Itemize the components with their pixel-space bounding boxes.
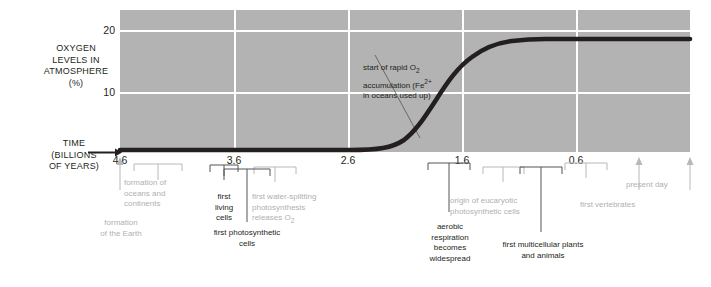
- event-label-present-day: present day: [626, 180, 702, 191]
- event-label-formation-oceans-continents: formation of oceans and continents: [124, 178, 188, 210]
- water-splitting-o2-subscript: 2: [291, 217, 295, 224]
- annotation-line-1: start of rapid O2: [363, 62, 459, 76]
- annotation-line-3: in oceans used up): [363, 90, 459, 101]
- annotation-line-2: accumulation (Fe2+: [363, 76, 459, 91]
- y-tick-10: 10: [93, 86, 115, 98]
- rapid-o2-accumulation-annotation: start of rapid O2 accumulation (Fe2+ in …: [363, 62, 459, 101]
- oxygen-levels-timeline-figure: OXYGEN LEVELS IN ATMOSPHERE (%) 20 10 TI…: [0, 0, 711, 287]
- y-axis-title: OXYGEN LEVELS IN ATMOSPHERE (%): [34, 43, 118, 89]
- y-axis-title-line-1: OXYGEN: [34, 43, 118, 55]
- annotation-o2-subscript: 2: [416, 67, 420, 74]
- first-water-splitting-line-2: photosynthesis: [252, 203, 344, 214]
- event-label-first-vertebrates: first vertebrates: [580, 200, 660, 211]
- event-label-origin-eucaryotic-cells: origin of eucaryotic photosynthetic cell…: [450, 196, 560, 217]
- first-water-splitting-line-3: releases O2: [252, 213, 344, 226]
- event-label-aerobic-respiration: aerobic respiration becomes widespread: [420, 222, 480, 264]
- y-tick-20: 20: [93, 24, 115, 36]
- first-water-splitting-line-1: first water-splitting: [252, 192, 344, 203]
- y-axis-title-line-2: LEVELS IN: [34, 55, 118, 67]
- annotation-fe-superscript: 2+: [424, 78, 431, 85]
- event-label-first-photosynthetic-cells: first photosynthetic cells: [185, 228, 309, 249]
- event-label-first-living-cells: first living cells: [196, 192, 252, 224]
- event-label-formation-of-earth: formation of the Earth: [86, 218, 156, 239]
- event-label-first-water-splitting-photosynthesis: first water-splitting photosynthesis rel…: [252, 192, 344, 226]
- event-label-first-multicellular: first multicellular plants and animals: [478, 240, 608, 261]
- y-axis-title-line-3: ATMOSPHERE: [34, 66, 118, 78]
